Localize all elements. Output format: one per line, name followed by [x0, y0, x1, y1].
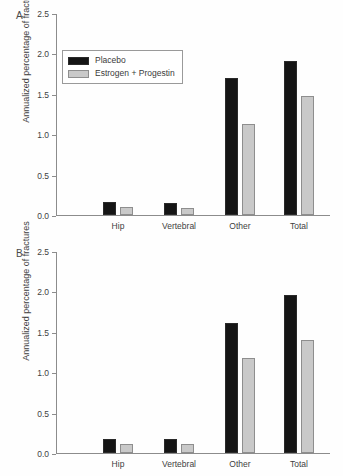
y-tick-label: 1.0: [37, 368, 49, 378]
bar-hip-placebo: [103, 202, 116, 215]
bar-hip-estrogen-progestin: [120, 207, 133, 215]
x-tick-label: Total: [290, 459, 308, 469]
y-tick: [52, 454, 56, 455]
plot-area-b: 0.00.51.01.52.02.5HipVertebralOtherTotal: [56, 252, 330, 454]
y-tick-label: 0.5: [37, 171, 49, 181]
y-tick-label: 0.0: [37, 211, 49, 221]
y-axis-line-b: [56, 252, 57, 454]
y-axis-line-a: [56, 14, 57, 216]
plot-area-a: 0.00.51.01.52.02.5HipVertebralOtherTotal: [56, 14, 330, 216]
bar-vertebral-placebo: [164, 439, 177, 453]
bar-other-cee: [242, 358, 255, 453]
x-tick-label: Vertebral: [162, 459, 196, 469]
y-axis-label-b: Annualized percentage of fractures: [21, 191, 31, 391]
legend-label-placebo-a: Placebo: [95, 56, 126, 65]
legend-item-placebo-a: Placebo: [68, 55, 175, 66]
y-tick: [52, 95, 56, 96]
x-axis-line-a: [56, 215, 330, 216]
fracture-bar-chart-figure: A Annualized percentage of fractures 0.0…: [0, 0, 343, 476]
y-tick-label: 2.5: [37, 9, 49, 19]
y-tick: [52, 54, 56, 55]
legend-label-treatment-a: Estrogen + Progestin: [95, 69, 175, 78]
bar-other-placebo: [225, 323, 238, 453]
bar-total-cee: [301, 340, 314, 453]
legend-swatch-placebo-icon: [68, 57, 89, 65]
y-tick: [52, 216, 56, 217]
bar-total-placebo: [284, 295, 297, 453]
y-tick-label: 0.5: [37, 409, 49, 419]
y-axis-label-a: Annualized percentage of fractures: [21, 0, 31, 153]
y-tick-label: 1.5: [37, 328, 49, 338]
y-tick: [52, 373, 56, 374]
y-tick-label: 2.0: [37, 287, 49, 297]
y-tick: [52, 414, 56, 415]
y-tick-label: 0.0: [37, 449, 49, 459]
bar-other-estrogen-progestin: [242, 124, 255, 215]
bar-vertebral-cee: [181, 444, 194, 453]
legend-a: Placebo Estrogen + Progestin: [62, 50, 183, 84]
y-tick: [52, 14, 56, 15]
x-tick-label: Vertebral: [162, 221, 196, 231]
x-tick-label: Other: [229, 459, 250, 469]
chart-panel-a: A Annualized percentage of fractures 0.0…: [0, 0, 343, 238]
y-tick: [52, 176, 56, 177]
x-tick-label: Other: [229, 221, 250, 231]
y-tick-label: 2.5: [37, 247, 49, 257]
bar-other-placebo: [225, 78, 238, 215]
bar-hip-cee: [120, 444, 133, 453]
y-tick-label: 1.0: [37, 130, 49, 140]
y-tick: [52, 333, 56, 334]
y-tick-label: 2.0: [37, 49, 49, 59]
chart-panel-b: B Annualized percentage of fractures 0.0…: [0, 238, 343, 476]
y-tick: [52, 135, 56, 136]
bar-hip-placebo: [103, 439, 116, 453]
y-tick-label: 1.5: [37, 90, 49, 100]
x-tick-label: Hip: [112, 459, 125, 469]
bar-vertebral-placebo: [164, 203, 177, 215]
bar-total-estrogen-progestin: [301, 96, 314, 215]
x-tick-label: Total: [290, 221, 308, 231]
legend-swatch-treatment-icon: [68, 70, 89, 78]
y-tick: [52, 292, 56, 293]
legend-item-treatment-a: Estrogen + Progestin: [68, 68, 175, 79]
x-tick-label: Hip: [112, 221, 125, 231]
bar-total-placebo: [284, 61, 297, 215]
bar-vertebral-estrogen-progestin: [181, 208, 194, 215]
x-axis-line-b: [56, 453, 330, 454]
y-tick: [52, 252, 56, 253]
